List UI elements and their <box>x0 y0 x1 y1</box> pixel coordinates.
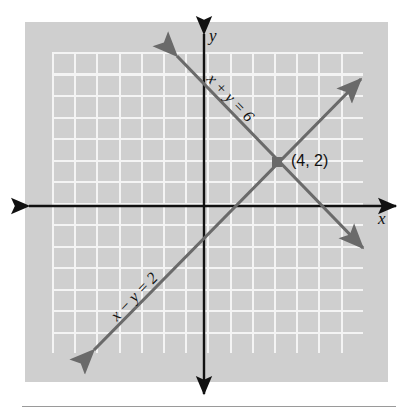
graph-vector-layer <box>0 0 415 414</box>
y-axis-label: y <box>209 26 217 46</box>
x-axis-label: x <box>378 209 386 229</box>
intersection-point-label: (4, 2) <box>291 152 328 170</box>
bottom-divider <box>22 406 396 407</box>
coordinate-plane-figure: y x x + y = 6 x − y = 2 (4, 2) <box>0 0 415 414</box>
intersection-point-marker <box>272 157 282 167</box>
